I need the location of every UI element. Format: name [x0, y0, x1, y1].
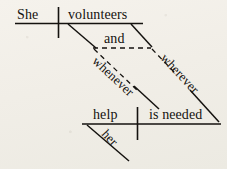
word-volunteers: volunteers [68, 8, 127, 22]
conjunction-leg-right [131, 24, 152, 47]
word-is-needed: is needed [149, 108, 202, 122]
word-help: help [93, 108, 118, 122]
sentence-diagram: She volunteers and whenever wherever hel… [0, 0, 227, 169]
word-she: She [17, 8, 38, 22]
word-and: and [104, 32, 125, 46]
conjunction-leg-left [68, 24, 96, 48]
whenever-solid-connector [134, 86, 159, 109]
